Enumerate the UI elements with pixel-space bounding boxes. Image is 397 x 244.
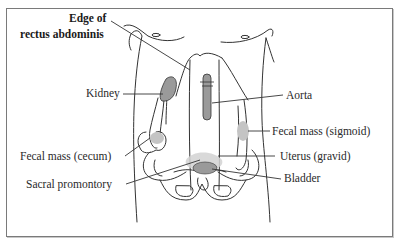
label-sacral-promontory: Sacral promontory (26, 178, 112, 191)
sigmoid-mass-shape (237, 121, 249, 141)
label-bladder: Bladder (284, 172, 320, 185)
label-aorta: Aorta (286, 89, 312, 102)
leader-bladder (212, 169, 281, 179)
torso-left-outline (131, 31, 142, 222)
nipple-right-icon (241, 35, 249, 38)
cecum-mass-shape (150, 132, 164, 144)
rectus-left-edge (190, 53, 222, 58)
label-rectus-line2: rectus abdominis (20, 28, 104, 41)
aorta-shape (203, 74, 211, 120)
iliac-right (218, 150, 259, 180)
costal-margin-right (222, 58, 248, 100)
bladder-shape (193, 162, 217, 174)
costal-margin-left (176, 58, 190, 96)
label-fecal-sigmoid: Fecal mass (sigmoid) (272, 125, 370, 138)
label-rectus-line1: Edge of (69, 12, 106, 25)
label-fecal-cecum: Fecal mass (cecum) (20, 150, 111, 163)
nipple-left-icon (152, 33, 160, 36)
chest-left (124, 25, 184, 41)
kidney-shape (160, 77, 176, 101)
leader-aorta (212, 95, 283, 103)
leader-rectus (111, 21, 190, 70)
label-uterus: Uterus (gravid) (280, 150, 351, 163)
label-kidney: Kidney (86, 87, 120, 100)
pubic-symphysis (197, 178, 208, 190)
